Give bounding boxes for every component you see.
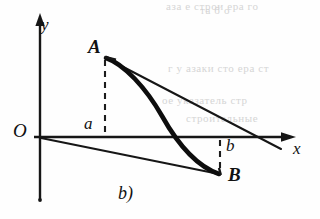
chord-a-to-right bbox=[106, 58, 281, 149]
curve-a-to-b bbox=[106, 58, 219, 174]
figure-caption: b) bbox=[118, 184, 133, 202]
origin-label: O bbox=[13, 121, 27, 140]
axis-label-y: y bbox=[41, 16, 49, 33]
axis-label-x: x bbox=[293, 140, 301, 157]
tick-label-a: a bbox=[84, 115, 93, 132]
y-axis-end-dot bbox=[38, 198, 42, 202]
point-label-b: B bbox=[228, 165, 241, 184]
point-label-a: A bbox=[88, 37, 101, 56]
tick-label-b: b bbox=[226, 137, 235, 154]
figure-b-diagram: та б о г у азаки сто ера ст аза е строи … bbox=[0, 0, 320, 219]
